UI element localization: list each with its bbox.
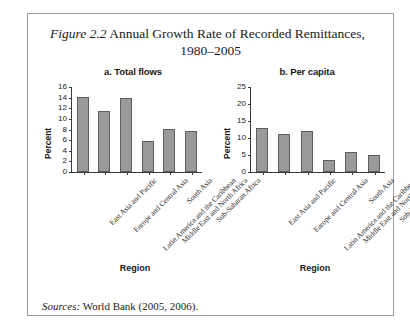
figure-page: Figure 2.2 Annual Growth Rate of Recorde… [0, 0, 410, 335]
y-tick-label: 14 [58, 93, 67, 102]
figure-title-line-2: 1980–2005 [36, 42, 385, 59]
bar [98, 111, 110, 172]
x-tick-mark [84, 172, 85, 175]
bar [256, 128, 268, 172]
chart-panel-per-capita: b. Per capita Percent 0510152025 East As… [212, 66, 392, 296]
category-labels-a: East Asia and PacificEurope and Central … [33, 176, 211, 271]
x-axis-label-a: Region [33, 263, 211, 273]
x-tick-mark [308, 172, 309, 175]
y-tick-label: 16 [58, 82, 67, 91]
x-tick-mark [330, 172, 331, 175]
plot-area-b: 0510152025 [250, 87, 385, 173]
x-axis-label-b: Region [212, 263, 392, 273]
y-tick-label: 10 [237, 133, 246, 142]
y-tick-label: 15 [237, 116, 246, 125]
bar [345, 152, 357, 172]
y-tick-label: 10 [58, 114, 67, 123]
plot-area-a: 0246810121416 [71, 87, 202, 173]
y-tick-label: 5 [242, 150, 246, 159]
bar [278, 134, 290, 172]
y-tick-label: 0 [242, 167, 246, 176]
x-tick-mark [285, 172, 286, 175]
bar-series-a [72, 87, 202, 172]
x-tick-mark [105, 172, 106, 175]
category-labels-b: East Asia and PacificEurope and Central … [212, 176, 392, 271]
y-tick-label: 0 [63, 167, 67, 176]
x-tick-mark [352, 172, 353, 175]
x-tick-mark [149, 172, 150, 175]
y-tick-label: 12 [58, 103, 67, 112]
x-tick-mark [127, 172, 128, 175]
figure-number: Figure 2.2 [50, 26, 107, 41]
bar [77, 97, 89, 172]
y-tick-label: 6 [63, 135, 67, 144]
source-note: Sources: World Bank (2005, 2006). [42, 300, 198, 312]
bar [301, 131, 313, 172]
bar [120, 98, 132, 172]
y-axis-label-a: Percent [43, 128, 53, 159]
x-tick-mark [170, 172, 171, 175]
bar [142, 141, 154, 172]
figure-caption: Figure 2.2 Annual Growth Rate of Recorde… [30, 25, 385, 60]
chart-panel-total-flows: a. Total flows Percent 0246810121416 Eas… [33, 66, 211, 296]
y-tick-label: 20 [237, 99, 246, 108]
x-tick-mark [192, 172, 193, 175]
y-tick-label: 8 [63, 125, 67, 134]
figure-title-line-1: Annual Growth Rate of Recorded Remittanc… [109, 26, 365, 41]
x-tick-mark [263, 172, 264, 175]
bar [323, 160, 335, 172]
bar-series-b [251, 87, 385, 172]
y-tick-label: 25 [237, 82, 246, 91]
source-label: Sources: [42, 300, 80, 312]
source-text: World Bank (2005, 2006). [83, 300, 199, 312]
x-tick-mark [375, 172, 376, 175]
panel-title-a: a. Total flows [33, 66, 211, 77]
bar [185, 131, 197, 172]
y-tick-label: 4 [63, 146, 67, 155]
panel-title-b: b. Per capita [212, 66, 392, 77]
bar [368, 155, 380, 172]
y-axis-label-b: Percent [222, 128, 232, 159]
bar [163, 129, 175, 172]
y-tick-label: 2 [63, 156, 67, 165]
